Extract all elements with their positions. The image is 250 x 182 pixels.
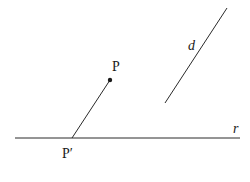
projection-diagram: P P′ d r bbox=[0, 0, 250, 182]
projection-segment bbox=[72, 80, 110, 138]
line-d bbox=[165, 8, 227, 103]
label-d: d bbox=[188, 38, 196, 53]
label-r: r bbox=[233, 121, 239, 136]
label-p: P bbox=[112, 59, 120, 74]
label-p-prime: P′ bbox=[62, 146, 73, 161]
point-p-dot bbox=[108, 78, 112, 82]
